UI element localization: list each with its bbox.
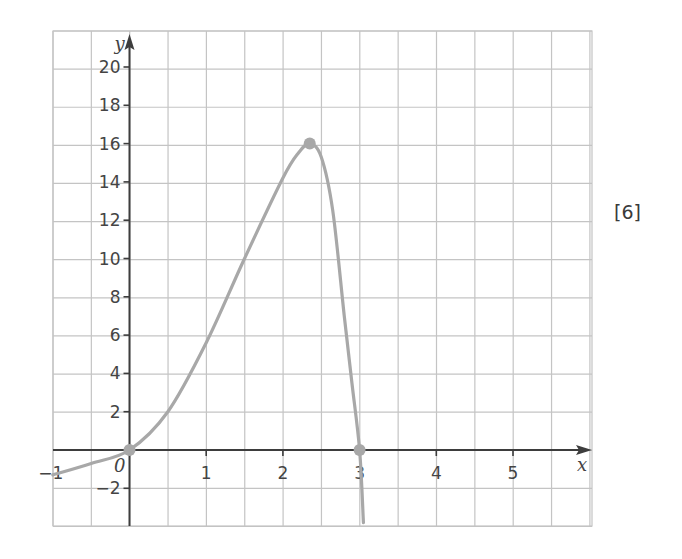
y-tick-label: 18	[99, 95, 121, 115]
marked-point	[304, 138, 316, 150]
marked-point	[124, 444, 136, 456]
tick-labels: −112345−224681012141618200xy	[38, 33, 587, 498]
y-tick-label: −2	[95, 478, 120, 498]
y-axis-label: y	[113, 33, 125, 54]
marked-point	[354, 444, 366, 456]
y-tick-label: 2	[110, 402, 121, 422]
x-axis-label: x	[577, 454, 587, 475]
x-tick-label: 4	[431, 463, 442, 483]
marks-label: [6]	[614, 201, 641, 223]
y-tick-label: 20	[99, 57, 121, 77]
x-tick-label: 5	[508, 463, 519, 483]
graph: −112345−224681012141618200xy	[0, 0, 682, 559]
y-tick-label: 14	[99, 172, 121, 192]
y-tick-label: 8	[110, 287, 121, 307]
x-tick-label: 1	[201, 463, 212, 483]
y-tick-label: 12	[99, 210, 121, 230]
y-tick-label: 16	[99, 134, 121, 154]
y-tick-label: 6	[110, 325, 121, 345]
x-tick-label: 2	[277, 463, 288, 483]
y-tick-label: 4	[110, 363, 121, 383]
y-tick-label: 10	[99, 249, 121, 269]
